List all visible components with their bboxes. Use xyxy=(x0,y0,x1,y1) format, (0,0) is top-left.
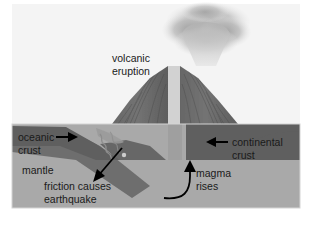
magma-label-line2: rises xyxy=(196,180,218,192)
oceanic-crust-label-line1: oceanic xyxy=(18,131,54,143)
oceanic-crust-label-line2: crust xyxy=(18,144,41,156)
continental-crust-label-line2: crust xyxy=(232,149,255,161)
annotation-volcanic-eruption: volcanic eruption xyxy=(112,52,150,77)
diagram-canvas: volcanic eruption oceanic crust continen… xyxy=(0,0,309,225)
earthquake-focus xyxy=(122,153,126,157)
magma-label-line1: magma xyxy=(196,167,231,179)
friction-label-line2: earthquake xyxy=(44,193,97,205)
conduit-base xyxy=(168,124,182,160)
friction-label-line1: friction causes xyxy=(44,180,111,192)
continental-crust-label-line1: continental xyxy=(232,136,283,148)
mantle-label: mantle xyxy=(22,164,54,176)
volcanic-eruption-label-line2: eruption xyxy=(112,65,150,77)
volcanic-eruption-label-line1: volcanic xyxy=(112,52,150,64)
volcano-conduit xyxy=(168,66,180,124)
